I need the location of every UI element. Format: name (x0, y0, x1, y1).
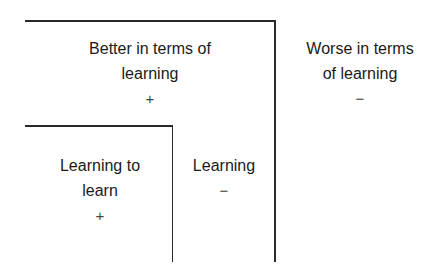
plus-sign: + (40, 203, 160, 228)
outer-top-border (25, 20, 276, 22)
worse-learning-line2: of learning (285, 61, 435, 86)
outer-right-border (274, 20, 276, 262)
learning-to-learn-line2: learn (40, 178, 160, 203)
learning-label: Learning − (178, 153, 270, 203)
inner-top-border (25, 125, 173, 127)
minus-sign: − (285, 86, 435, 111)
worse-learning-line1: Worse in terms (285, 36, 435, 61)
minus-sign: − (178, 178, 270, 203)
learning-line1: Learning (178, 153, 270, 178)
plus-sign: + (60, 86, 240, 111)
better-learning-label: Better in terms of learning + (60, 36, 240, 111)
better-learning-line1: Better in terms of (60, 36, 240, 61)
inner-right-border (172, 125, 174, 262)
better-learning-line2: learning (60, 61, 240, 86)
learning-to-learn-label: Learning to learn + (40, 153, 160, 228)
worse-learning-label: Worse in terms of learning − (285, 36, 435, 111)
learning-to-learn-line1: Learning to (40, 153, 160, 178)
